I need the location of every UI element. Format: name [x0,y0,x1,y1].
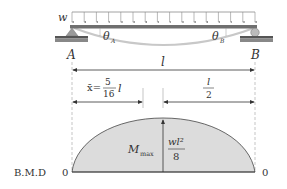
bmd-left-zero: 0 [62,167,68,178]
support-a-label: A [66,48,76,62]
theta-b-subscript: B [219,37,225,44]
xbar-expression: x̄= 5 16 l [87,77,122,99]
svg-text:l: l [118,82,122,95]
svg-text:wl²: wl² [168,136,184,147]
svg-text:16: 16 [103,89,115,99]
theta-b-label: θ [212,30,219,43]
span-label: l [161,55,165,69]
theta-a-subscript: A [110,37,116,44]
svg-text:5: 5 [105,77,111,87]
support-b-label: B [250,48,260,62]
svg-text:l: l [207,76,210,87]
load-label: w [58,11,68,24]
bending-moment-diagram [72,118,255,172]
svg-text:8: 8 [173,151,179,162]
svg-text:2: 2 [206,90,212,100]
bmd-label: B.M.D [14,167,46,178]
pin-support-a [55,28,88,42]
bmd-right-zero: 0 [262,167,268,178]
half-span-expression: l 2 [203,76,214,100]
beam [70,25,257,29]
distributed-load [72,12,255,22]
beam-diagram: w θ A θ B A B l x̄= 5 16 l l 2 [0,0,287,189]
svg-text:M: M [127,143,140,156]
svg-text:x̄=: x̄= [87,82,101,93]
svg-text:max: max [140,150,154,158]
deflection-curve [74,28,254,45]
theta-a-label: θ [103,30,110,43]
